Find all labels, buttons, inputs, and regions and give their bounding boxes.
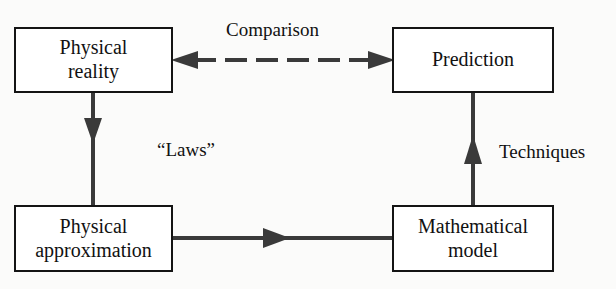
diagram-canvas: Physical reality Prediction Physical app… — [0, 0, 616, 289]
node-prediction[interactable]: Prediction — [392, 27, 554, 93]
node-mathematical-model[interactable]: Mathematical model — [392, 205, 554, 272]
edge-derivation — [168, 224, 398, 252]
edge-label-laws: “Laws” — [157, 139, 215, 161]
edge-laws — [79, 88, 107, 210]
arrowhead-left-icon — [171, 51, 198, 69]
edge-comparison-shape — [168, 46, 398, 74]
node-prediction-label: Prediction — [428, 48, 518, 72]
arrowhead-down-icon — [84, 118, 102, 144]
arrowhead-right-icon — [368, 51, 395, 69]
edge-derivation-shape — [168, 224, 398, 252]
edge-comparison — [168, 46, 398, 74]
node-mathematical-model-label: Mathematical model — [414, 215, 532, 262]
edge-techniques — [459, 88, 487, 210]
node-physical-reality[interactable]: Physical reality — [14, 27, 173, 93]
node-physical-approximation[interactable]: Physical approximation — [14, 205, 173, 272]
edge-label-comparison: Comparison — [226, 19, 319, 41]
arrowhead-up-icon — [464, 135, 482, 164]
edge-laws-shape — [79, 88, 107, 210]
node-physical-reality-label: Physical reality — [56, 36, 132, 83]
node-physical-approximation-label: Physical approximation — [31, 215, 156, 262]
edge-techniques-shape — [459, 88, 487, 210]
arrowhead-right-icon — [263, 228, 290, 248]
edge-label-techniques: Techniques — [499, 141, 585, 163]
